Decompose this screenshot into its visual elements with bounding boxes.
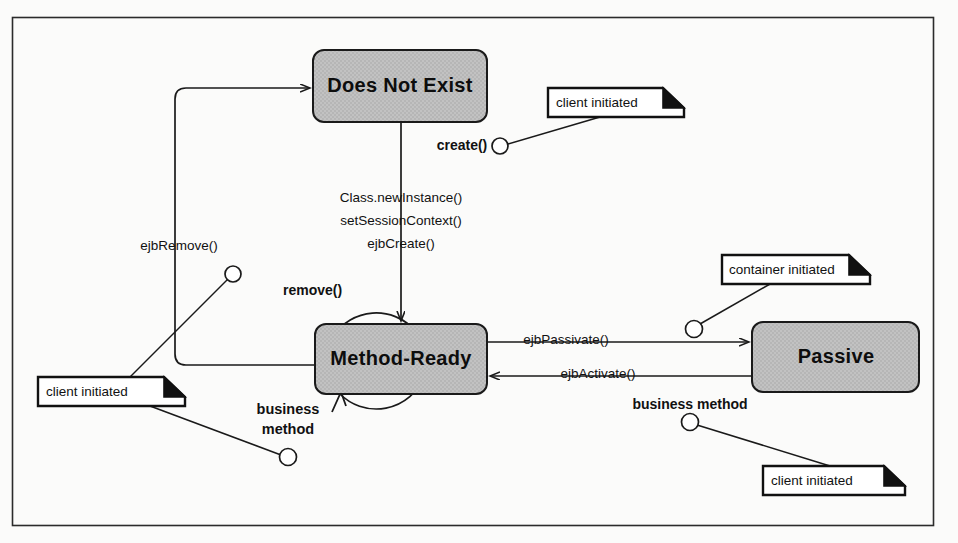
edge-label-ejb-remove: ejbRemove() [140, 238, 217, 253]
note-text-remove: client initiated [46, 384, 128, 399]
state-does-not-exist[interactable]: Does Not Exist [313, 50, 487, 122]
note-text-create: client initiated [556, 95, 638, 110]
edge-label-remove: remove() [283, 282, 342, 298]
edge-label-instantiate-1: Class.newInstance() [340, 190, 462, 205]
note-text-business: client initiated [771, 473, 853, 488]
note-remove-client-initiated[interactable]: client initiated [38, 377, 185, 406]
note-container-initiated[interactable]: container initiated [722, 255, 870, 284]
note-business-client-initiated[interactable]: client initiated [763, 466, 905, 495]
edge-label-business-method-passive: business method [632, 396, 747, 412]
note-text-passivate: container initiated [729, 262, 835, 277]
edge-label-business-method-loop-2: method [262, 421, 314, 437]
state-method-ready[interactable]: Method-Ready [315, 324, 487, 394]
state-label-method-ready: Method-Ready [330, 347, 472, 369]
state-label-does-not-exist: Does Not Exist [327, 74, 472, 96]
edge-label-ejb-passivate: ejbPassivate() [523, 332, 609, 347]
state-label-passive: Passive [798, 345, 875, 367]
uml-state-diagram: Does Not Exist Method-Ready Passive crea… [0, 0, 958, 543]
state-passive[interactable]: Passive [752, 322, 919, 392]
edge-label-ejb-activate: ejbActivate() [560, 366, 635, 381]
diagram-canvas: Does Not Exist Method-Ready Passive crea… [0, 0, 958, 543]
edge-label-instantiate-2: setSessionContext() [340, 213, 462, 228]
note-create-client-initiated[interactable]: client initiated [548, 88, 684, 117]
edge-label-instantiate-3: ejbCreate() [367, 236, 435, 251]
edge-label-create: create() [437, 137, 488, 153]
edge-label-business-method-loop-1: business [257, 401, 320, 417]
